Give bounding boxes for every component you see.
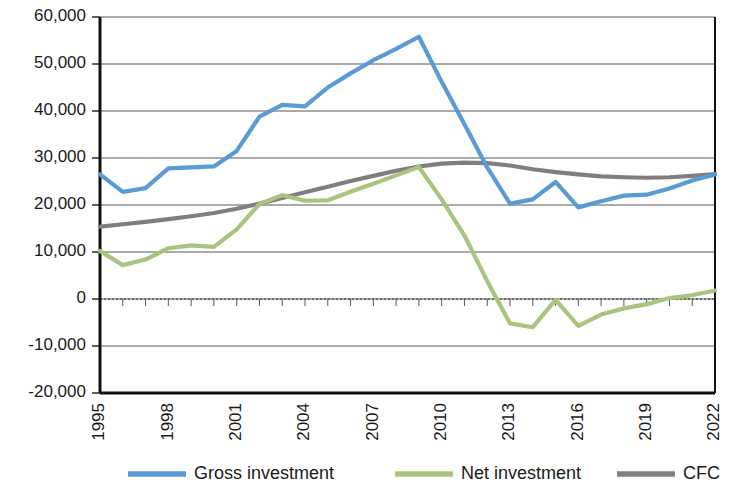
x-axis-tick-label: 2004 <box>294 403 313 441</box>
x-axis-tick-label: 2019 <box>636 403 655 441</box>
y-axis-tick-label: 30,000 <box>34 147 86 166</box>
y-axis-tick-label: 0 <box>77 288 86 307</box>
y-axis-tick-label: 10,000 <box>34 241 86 260</box>
legend-label-gross-investment: Gross investment <box>194 463 334 483</box>
x-axis-tick-label: 2001 <box>226 403 245 441</box>
x-axis-tick-label: 2007 <box>363 403 382 441</box>
x-axis-tick-label: 2013 <box>499 403 518 441</box>
y-axis-tick-label: -10,000 <box>28 335 86 354</box>
y-axis-tick-label: -20,000 <box>28 382 86 401</box>
x-axis-tick-label: 1995 <box>89 403 108 441</box>
y-axis-tick-label: 40,000 <box>34 100 86 119</box>
investment-line-chart: 60,00050,00040,00030,00020,00010,0000-10… <box>0 0 739 494</box>
x-axis-tick-label: 2010 <box>431 403 450 441</box>
x-axis-tick-label: 2016 <box>568 403 587 441</box>
chart-canvas: 60,00050,00040,00030,00020,00010,0000-10… <box>0 0 739 494</box>
legend-label-cfc: CFC <box>683 463 720 483</box>
y-axis-labels: 60,00050,00040,00030,00020,00010,0000-10… <box>28 6 86 401</box>
x-axis-tick-label: 2022 <box>704 403 723 441</box>
y-axis-tick-label: 60,000 <box>34 6 86 25</box>
y-axis-tick-label: 50,000 <box>34 53 86 72</box>
legend-label-net-investment: Net investment <box>461 463 581 483</box>
x-axis-tick-label: 1998 <box>158 403 177 441</box>
y-axis-tick-label: 20,000 <box>34 194 86 213</box>
